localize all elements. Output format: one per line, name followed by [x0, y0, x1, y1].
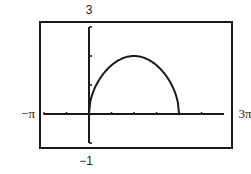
x-min-label: −π — [21, 106, 35, 121]
axes — [44, 27, 224, 143]
chart: 3 −1 −π 3π — [0, 0, 251, 174]
series-line — [89, 56, 179, 114]
y-min-label: −1 — [79, 154, 93, 168]
y-max-label: 3 — [86, 3, 93, 17]
plot-frame — [40, 22, 232, 148]
x-max-label: 3π — [238, 106, 251, 121]
ticks — [44, 27, 202, 143]
